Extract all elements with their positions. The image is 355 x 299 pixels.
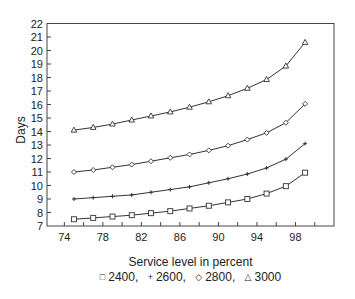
plus-marker-icon <box>168 188 172 192</box>
y-tick-label: 21 <box>31 31 43 43</box>
diamond-marker-icon <box>264 130 269 135</box>
diamond-marker-icon <box>226 143 231 148</box>
y-tick-label: 19 <box>31 58 43 70</box>
square-marker-icon <box>206 203 211 208</box>
plus-marker-icon <box>207 181 211 185</box>
square-marker-icon <box>110 214 115 219</box>
legend-label: 3000 <box>254 270 281 284</box>
diamond-marker-icon: ◇ <box>195 272 202 282</box>
y-tick-label: 14 <box>31 126 43 138</box>
plus-marker-icon <box>188 185 192 189</box>
plus-marker-icon <box>245 172 249 176</box>
diamond-marker-icon <box>149 159 154 164</box>
diamond-marker-icon <box>91 167 96 172</box>
diamond-marker-icon <box>187 152 192 157</box>
diamond-marker-icon <box>110 165 115 170</box>
series-2400 <box>71 170 307 222</box>
series-2800 <box>71 101 307 174</box>
series-line <box>74 173 305 220</box>
plus-marker-icon: + <box>148 272 153 282</box>
y-tick-label: 9 <box>37 193 43 205</box>
diamond-marker-icon <box>129 162 134 167</box>
plus-marker-icon <box>226 177 230 181</box>
square-marker-icon <box>91 215 96 220</box>
triangle-marker-icon <box>302 39 308 44</box>
y-tick-label: 8 <box>37 207 43 219</box>
legend-label: 2600, <box>156 270 186 284</box>
square-marker-icon <box>245 197 250 202</box>
y-tick-label: 20 <box>31 45 43 57</box>
y-tick-label: 17 <box>31 85 43 97</box>
legend-item-2600: +2600, <box>148 270 186 284</box>
diamond-marker-icon <box>206 148 211 153</box>
x-axis-title: Service level in percent <box>47 255 334 269</box>
x-tick-label: 74 <box>58 231 70 243</box>
y-tick-label: 18 <box>31 72 43 84</box>
series-line <box>74 42 305 130</box>
x-tick-label: 78 <box>97 231 109 243</box>
square-marker-icon <box>129 213 134 218</box>
chart-legend: □2400, +2600, ◇2800, △3000 <box>47 270 334 284</box>
x-tick-label: 86 <box>174 231 186 243</box>
series-line <box>74 104 305 172</box>
plus-marker-icon <box>110 194 114 198</box>
triangle-marker-icon <box>264 77 270 82</box>
square-marker-icon <box>71 217 76 222</box>
square-marker-icon <box>283 184 288 189</box>
y-tick-label: 10 <box>31 180 43 192</box>
y-tick-label: 16 <box>31 99 43 111</box>
y-tick-label: 12 <box>31 153 43 165</box>
square-marker-icon <box>226 200 231 205</box>
triangle-marker-icon: △ <box>245 272 252 282</box>
y-tick-label: 7 <box>37 220 43 232</box>
square-marker-icon: □ <box>100 272 105 282</box>
plus-marker-icon <box>91 196 95 200</box>
legend-label: 2400, <box>108 270 138 284</box>
square-marker-icon <box>187 206 192 211</box>
plus-marker-icon <box>72 197 76 201</box>
plot-frame <box>47 24 334 227</box>
square-marker-icon <box>264 191 269 196</box>
y-tick-label: 15 <box>31 112 43 124</box>
square-marker-icon <box>168 209 173 214</box>
square-marker-icon <box>303 170 308 175</box>
diamond-marker-icon <box>71 170 76 175</box>
legend-label: 2800, <box>205 270 235 284</box>
y-axis-title: Days <box>14 115 28 145</box>
legend-item-3000: △3000 <box>245 270 282 284</box>
diamond-marker-icon <box>245 137 250 142</box>
diamond-marker-icon <box>168 155 173 160</box>
x-tick-label: 90 <box>212 231 224 243</box>
series-3000 <box>71 39 308 132</box>
plus-marker-icon <box>149 190 153 194</box>
x-tick-label: 94 <box>251 231 263 243</box>
square-marker-icon <box>149 211 154 216</box>
chart-series <box>71 39 308 221</box>
y-tick-label: 11 <box>32 166 43 178</box>
legend-item-2400: □2400, <box>100 270 138 284</box>
x-tick-label: 98 <box>289 231 301 243</box>
y-tick-label: 22 <box>31 18 43 30</box>
y-tick-label: 13 <box>31 139 43 151</box>
x-tick-label: 82 <box>135 231 147 243</box>
plus-marker-icon <box>130 193 134 197</box>
plus-marker-icon <box>265 166 269 170</box>
legend-item-2800: ◇2800, <box>195 270 235 284</box>
